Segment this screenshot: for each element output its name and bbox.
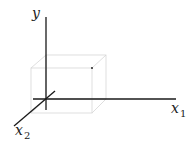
cube-edge — [92, 99, 106, 113]
point-marker — [91, 67, 93, 69]
cube-edge — [31, 55, 46, 68]
y-axis-label: y — [31, 5, 41, 21]
x1-axis-label: x1 — [171, 100, 186, 119]
cube-edge — [92, 55, 106, 68]
cube-front-face — [31, 68, 92, 113]
wireframe-cube — [31, 55, 106, 113]
cube-back-face — [46, 55, 106, 99]
x2-axis — [14, 91, 55, 126]
coordinate-diagram: y x1 x2 — [0, 0, 194, 154]
x2-axis-label: x2 — [15, 122, 30, 141]
